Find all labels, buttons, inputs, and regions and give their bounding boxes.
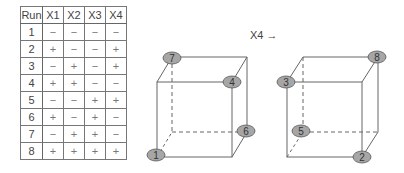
node-3: 3 — [277, 76, 295, 88]
svg-text:8: 8 — [374, 52, 380, 63]
node-4: 4 — [223, 76, 241, 88]
cube-diagrams: 7 4 6 1 3 8 — [0, 0, 404, 173]
node-1: 1 — [147, 149, 165, 161]
front-face — [287, 82, 362, 157]
node-7: 7 — [163, 52, 181, 64]
svg-text:2: 2 — [359, 152, 365, 163]
svg-text:4: 4 — [229, 77, 235, 88]
svg-text:1: 1 — [153, 150, 159, 161]
svg-text:6: 6 — [243, 126, 249, 137]
cube-x4-low — [157, 57, 247, 157]
node-5: 5 — [292, 125, 310, 137]
svg-text:5: 5 — [298, 126, 304, 137]
front-face — [157, 82, 232, 157]
node-2: 2 — [353, 151, 371, 163]
cube-x4-low-nodes: 7 4 6 1 — [147, 52, 255, 161]
node-6: 6 — [237, 125, 255, 137]
cube-x4-high — [287, 57, 378, 157]
node-8: 8 — [368, 51, 386, 63]
svg-text:7: 7 — [169, 53, 175, 64]
svg-text:3: 3 — [283, 77, 289, 88]
